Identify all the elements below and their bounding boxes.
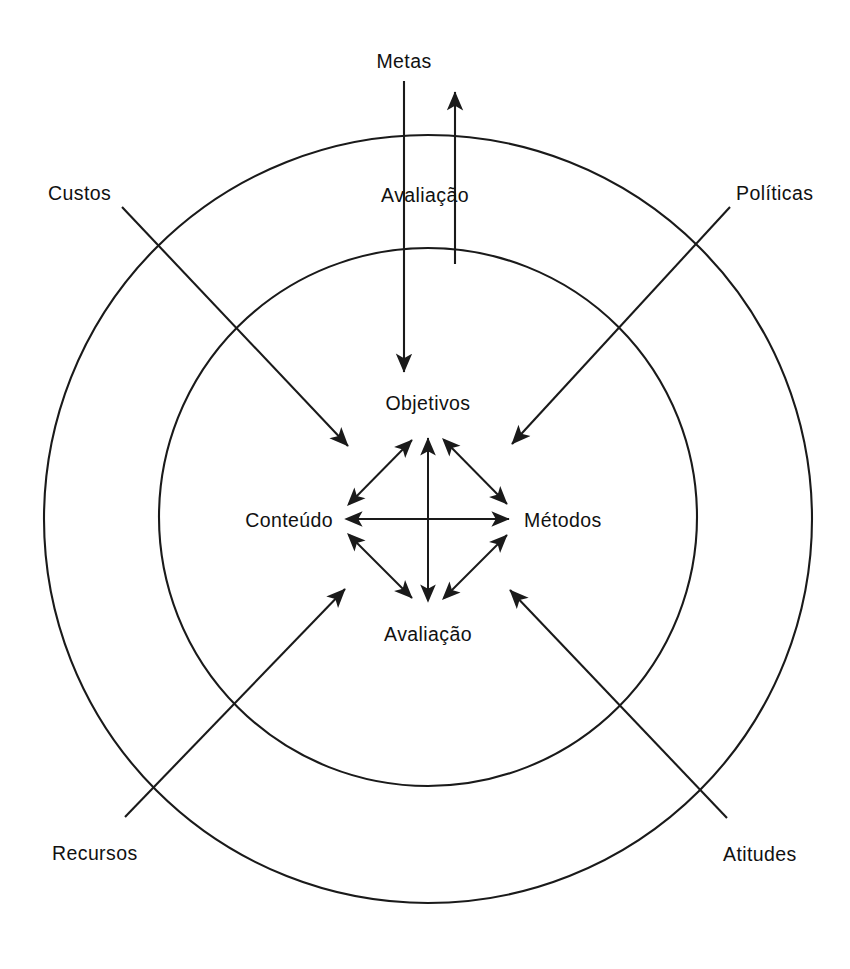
- diagram-canvas: Metas Avaliação Custos Políticas Recurso…: [0, 0, 850, 969]
- objetivos-metodos-double-arrow: [444, 440, 507, 504]
- conteudo-objetivos-double-arrow: [349, 440, 412, 504]
- curriculum-diagram: Metas Avaliação Custos Políticas Recurso…: [0, 0, 850, 969]
- outer-input-arrows-group: [122, 207, 730, 818]
- vertical-feedback-group: [404, 81, 455, 372]
- label-avaliacao-core: Avaliação: [384, 623, 472, 645]
- politicas-arrow: [512, 207, 730, 444]
- label-metodos: Métodos: [524, 509, 602, 531]
- label-avaliacao-feedback: Avaliação: [381, 184, 469, 206]
- label-objetivos: Objetivos: [386, 392, 471, 414]
- avaliacao-metodos-double-arrow: [444, 535, 507, 598]
- label-politicas: Políticas: [736, 182, 813, 204]
- recursos-arrow: [125, 589, 345, 817]
- core-diamond-group: [347, 438, 509, 600]
- label-recursos: Recursos: [52, 842, 138, 864]
- label-conteudo: Conteúdo: [245, 509, 333, 531]
- label-metas: Metas: [376, 50, 431, 72]
- label-atitudes: Atitudes: [723, 843, 797, 865]
- label-custos: Custos: [48, 182, 111, 204]
- labels-group: Metas Avaliação Custos Políticas Recurso…: [48, 50, 813, 865]
- custos-arrow: [122, 207, 348, 446]
- conteudo-avaliacao-double-arrow: [349, 535, 412, 598]
- atitudes-arrow: [510, 590, 727, 818]
